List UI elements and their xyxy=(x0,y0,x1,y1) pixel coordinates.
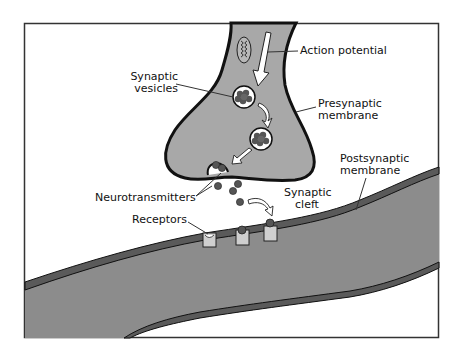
label-presynaptic-line2: membrane xyxy=(318,110,382,122)
label-presynaptic-membrane: Presynaptic membrane xyxy=(318,98,382,122)
label-postsynaptic-line2: membrane xyxy=(340,165,409,177)
label-receptors: Receptors xyxy=(125,214,187,226)
label-postsynaptic-membrane: Postsynaptic membrane xyxy=(340,153,409,177)
label-synaptic-cleft-line2: cleft xyxy=(284,199,330,211)
label-synaptic-vesicles: Synaptic vesicles xyxy=(130,71,178,95)
mitochondrion-icon xyxy=(237,37,251,63)
label-neurotransmitters: Neurotransmitters xyxy=(95,192,195,204)
label-synaptic-vesicles-line2: vesicles xyxy=(130,83,178,95)
label-synaptic-cleft: Synaptic cleft xyxy=(284,187,330,211)
label-action-potential: Action potential xyxy=(300,45,387,57)
